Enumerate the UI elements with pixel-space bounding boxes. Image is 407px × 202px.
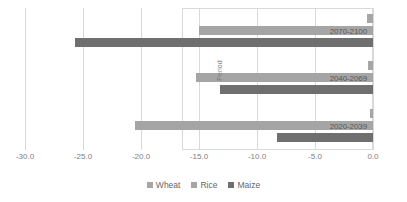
group-label: 2040-2069 xyxy=(330,74,367,83)
group-label: 2070-2100 xyxy=(330,27,367,36)
bar-maize xyxy=(277,133,373,142)
y-axis-title: Period xyxy=(215,60,222,82)
bar-group: 2070-2100 xyxy=(25,8,373,55)
gridline xyxy=(373,8,374,150)
bar-wheat xyxy=(368,61,373,70)
bar-wheat xyxy=(370,109,373,118)
bar-maize xyxy=(220,85,373,94)
group-label: 2020-2039 xyxy=(330,122,367,131)
bar-chart: 2070-21002040-20692020-2039 Period -30.0… xyxy=(0,0,407,202)
legend-label: Rice xyxy=(200,180,217,190)
x-tick-label: -10.0 xyxy=(248,152,266,161)
legend-label: Wheat xyxy=(156,180,181,190)
bar-group: 2020-2039 xyxy=(25,103,373,150)
x-tick-label: -25.0 xyxy=(74,152,92,161)
bar-maize xyxy=(75,38,373,47)
legend-item-wheat[interactable]: Wheat xyxy=(147,180,181,190)
chart-legend: WheatRiceMaize xyxy=(0,180,407,190)
bar-wheat xyxy=(367,14,373,23)
x-tick-label: -15.0 xyxy=(190,152,208,161)
x-tick-label: -20.0 xyxy=(132,152,150,161)
bar-group: 2040-2069 xyxy=(25,55,373,102)
legend-swatch-icon xyxy=(191,182,197,188)
x-tick-label: -30.0 xyxy=(16,152,34,161)
legend-item-maize[interactable]: Maize xyxy=(228,180,260,190)
legend-swatch-icon xyxy=(147,182,153,188)
x-axis-tick-labels: -30.0-25.0-20.0-15.0-10.0-5.00.0 xyxy=(0,152,407,166)
legend-label: Maize xyxy=(237,180,260,190)
x-tick-label: 0.0 xyxy=(367,152,378,161)
plot-area: 2070-21002040-20692020-2039 Period xyxy=(25,8,373,150)
legend-item-rice[interactable]: Rice xyxy=(191,180,217,190)
x-tick-label: -5.0 xyxy=(308,152,322,161)
legend-swatch-icon xyxy=(228,182,234,188)
